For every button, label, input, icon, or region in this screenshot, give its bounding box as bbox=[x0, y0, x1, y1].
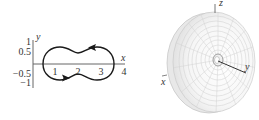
x-tick-label: 4 bbox=[122, 66, 127, 77]
x-tick-label: 2 bbox=[76, 66, 81, 77]
x-axis-label-3d: x bbox=[160, 76, 166, 87]
figure: y x 1 0.5 −0.5 −1 1 2 3 4 bbox=[0, 0, 259, 120]
x-tick-label: 3 bbox=[99, 66, 104, 77]
y-tick-label: −1 bbox=[20, 77, 31, 88]
right-plot: z y x bbox=[160, 0, 258, 114]
inner-hole bbox=[215, 57, 220, 64]
arrow-right-icon bbox=[62, 75, 70, 82]
x-tick-label: 1 bbox=[53, 66, 58, 77]
left-plot: y x 1 0.5 −0.5 −1 1 2 3 4 bbox=[13, 31, 127, 88]
y-axis-label-3d: y bbox=[244, 61, 250, 72]
x-axis-label: x bbox=[120, 52, 126, 63]
z-axis-label: z bbox=[218, 0, 223, 8]
y-axis-label: y bbox=[35, 31, 41, 42]
y-tick-label: 0.5 bbox=[19, 46, 32, 57]
